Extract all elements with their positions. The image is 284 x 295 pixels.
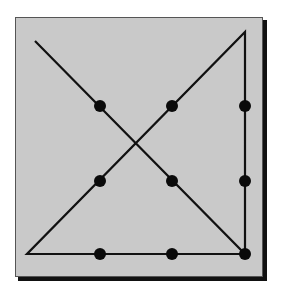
dot-r1c3 (239, 100, 251, 112)
shadow-bottom (18, 277, 267, 281)
dot-r3c1 (94, 248, 106, 260)
diagram-canvas (0, 0, 284, 295)
dot-r1c2 (166, 100, 178, 112)
dot-r2c3 (239, 175, 251, 187)
dot-r1c1 (94, 100, 106, 112)
shadow-right (263, 20, 267, 281)
nine-dots-diagram: Nine dots puzzle solution (0, 0, 284, 295)
dot-r3c3 (239, 248, 251, 260)
dot-r2c1 (94, 175, 106, 187)
dot-r3c2 (166, 248, 178, 260)
dot-r2c2 (166, 175, 178, 187)
